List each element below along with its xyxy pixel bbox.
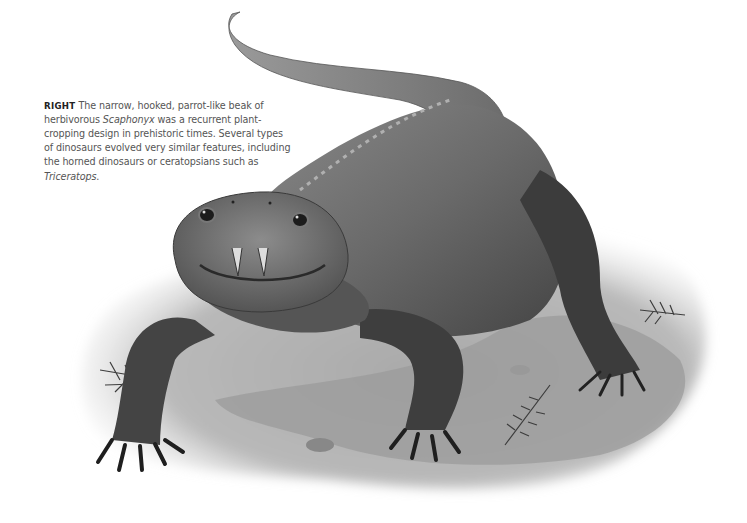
caption-genus-name: Scaphonyx <box>103 114 155 125</box>
right-eye <box>292 213 308 227</box>
caption-genus-name: Triceratops <box>44 171 96 182</box>
scaphonyx-illustration <box>0 0 747 523</box>
book-page: RIGHTThe narrow, hooked, parrot-like bea… <box>0 0 747 523</box>
caption-text: . <box>96 171 99 182</box>
figure-caption: RIGHTThe narrow, hooked, parrot-like bea… <box>44 99 294 184</box>
head <box>173 192 348 312</box>
left-eye <box>199 208 215 222</box>
caption-label: RIGHT <box>44 101 75 111</box>
